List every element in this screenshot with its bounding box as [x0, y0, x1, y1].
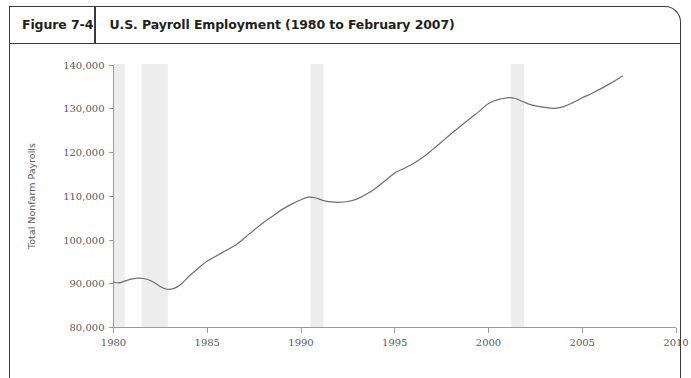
y-tick-label: 140,000 [63, 60, 104, 71]
payroll-employment-line-chart: 80,00090,000100,000110,000120,000130,000… [0, 44, 691, 365]
recession-band-1980 [114, 64, 125, 328]
y-tick-label: 120,000 [63, 147, 104, 158]
payroll-employment-line [114, 76, 623, 289]
chart-container: 80,00090,000100,000110,000120,000130,000… [0, 44, 691, 365]
y-axis-ticks-group: 80,00090,000100,000110,000120,000130,000… [63, 60, 113, 334]
x-tick-label: 1990 [288, 337, 313, 348]
y-tick-label: 130,000 [63, 103, 104, 114]
x-tick-label: 2005 [570, 337, 595, 348]
y-tick-label: 80,000 [70, 322, 105, 333]
x-tick-label: 1980 [101, 337, 126, 348]
figure-title: U.S. Payroll Employment (1980 to Februar… [96, 17, 455, 32]
recession-band-1990-1991 [310, 64, 323, 328]
y-tick-label: 100,000 [63, 235, 104, 246]
x-axis-ticks-group: 1980198519901995200020052010 [101, 328, 689, 348]
recession-band-2001 [511, 64, 524, 328]
x-tick-label: 1985 [195, 337, 220, 348]
x-tick-label: 2010 [663, 337, 688, 348]
y-tick-label: 90,000 [70, 278, 105, 289]
figure-number-label: Figure 7-4 [9, 6, 94, 43]
y-axis-title: Total Nonfarm Payrolls [26, 143, 37, 250]
x-tick-label: 2000 [476, 337, 501, 348]
x-tick-label: 1995 [382, 337, 407, 348]
y-tick-label: 110,000 [63, 191, 104, 202]
figure-caption-bar: Figure 7-4 U.S. Payroll Employment (1980… [9, 6, 681, 44]
